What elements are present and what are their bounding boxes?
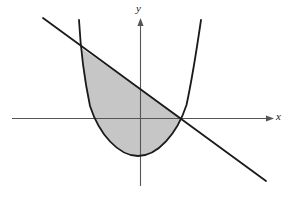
x-axis-arrowhead xyxy=(266,115,274,121)
figure-canvas: y x xyxy=(0,0,289,198)
y-axis-label: y xyxy=(136,3,141,14)
line-curve xyxy=(43,18,266,181)
plot-svg xyxy=(0,0,289,198)
x-axis-label: x xyxy=(276,111,281,122)
y-axis-arrowhead xyxy=(137,18,143,26)
